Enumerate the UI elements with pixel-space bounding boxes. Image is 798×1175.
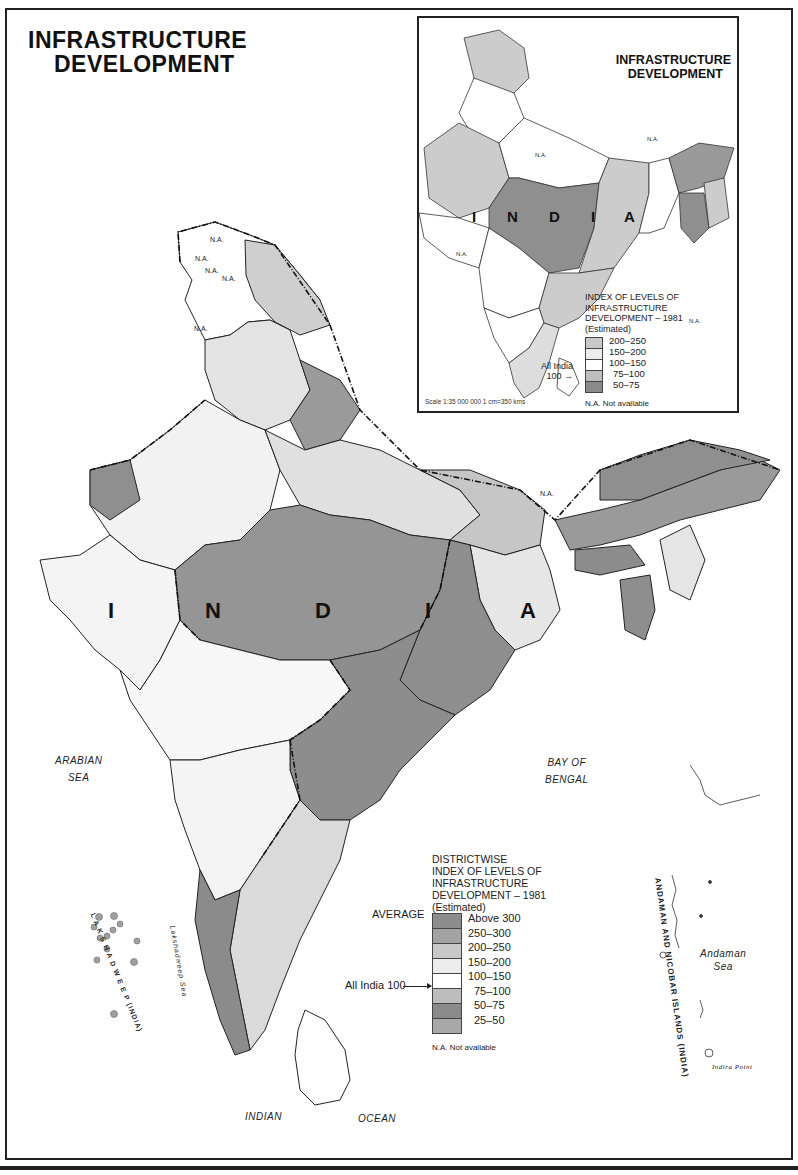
swatch-150-200: [432, 958, 462, 973]
na-label: N.A.: [210, 236, 224, 243]
inset-scale-label: Scale 1:35 000 000 1 cm=350 kms: [425, 398, 525, 405]
title-line1: INFRASTRUCTURE: [28, 27, 247, 53]
na-label: N.A.: [195, 255, 209, 262]
inset-legend-na-note: N.A. Not available: [585, 399, 649, 410]
inset-country-letter-i1: I: [472, 208, 476, 225]
inset-na-label: N.A.: [535, 152, 547, 158]
inset-legend: INDEX OF LEVELS OF INFRASTRUCTURE DEVELO…: [585, 292, 683, 334]
swatch-75-100: [432, 988, 462, 1003]
swatch-200-250: [432, 943, 462, 958]
all-india-label: All India 100: [345, 979, 406, 991]
country-letter-a: A: [520, 598, 536, 624]
inset-title: INFRASTRUCTURE DEVELOPMENT: [616, 53, 731, 81]
inset-swatch-50-75: [585, 381, 603, 393]
inset-legend-ranges: 200–250 150–200 100–150 75–100 50–75: [609, 336, 646, 391]
sea-label-arabian: ARABIAN SEA: [55, 755, 102, 783]
region-tripura-mizoram: [620, 575, 655, 640]
inset-swatch-150-200: [585, 348, 603, 359]
inset-title-line1: INFRASTRUCTURE: [616, 53, 731, 67]
inset-all-india-label: All India 100 →: [541, 361, 573, 381]
main-legend-na-note: N.A. Not available: [432, 1042, 496, 1054]
average-label: AVERAGE: [372, 908, 424, 920]
indira-point-label: Indira Point: [712, 1063, 752, 1071]
na-label: N.A.: [194, 325, 208, 332]
sri-lanka: [295, 1010, 350, 1105]
main-legend-ranges: Above 300 250–300 200–250 150–200 100–15…: [468, 912, 521, 1028]
inset-na-label: N.A.: [647, 136, 659, 142]
swatch-50-75: [432, 1003, 462, 1018]
inset-na-label: N.A.: [689, 318, 701, 324]
inset-country-letter-a: A: [624, 208, 635, 225]
inset-country-letter-n: N: [507, 208, 518, 225]
country-letter-i2: I: [425, 598, 431, 624]
main-legend-heading: DISTRICTWISE INDEX OF LEVELS OF INFRASTR…: [432, 853, 546, 913]
na-label: N.A.: [222, 275, 236, 282]
inset-swatch-100-150: [585, 359, 603, 370]
main-legend: DISTRICTWISE INDEX OF LEVELS OF INFRASTR…: [432, 853, 546, 913]
sea-label-bay-of-bengal: BAY OF BENGAL: [545, 757, 589, 785]
inset-legend-swatches: [585, 337, 603, 393]
inset-country-letter-i2: I: [591, 208, 595, 225]
swatch-250-300: [432, 928, 462, 943]
sea-label-andaman: Andaman Sea: [700, 947, 746, 973]
swatch-above-300: [432, 913, 462, 928]
inset-swatch-75-100: [585, 370, 603, 381]
country-letter-i1: I: [108, 598, 114, 624]
region-meghalaya: [575, 545, 645, 575]
inset-title-line2: DEVELOPMENT: [616, 67, 731, 81]
arrow-icon: [403, 986, 431, 987]
inset-map-panel: INFRASTRUCTURE DEVELOPMENT I N D I A N.A…: [417, 16, 739, 413]
sea-label-ocean: OCEAN: [358, 1113, 396, 1124]
inset-country-letter-d: D: [549, 208, 560, 225]
inset-na-label: N.A.: [456, 251, 468, 257]
na-label: N.A.: [540, 490, 554, 497]
sea-label-indian: INDIAN: [245, 1111, 282, 1122]
title-line2: DEVELOPMENT: [28, 52, 247, 76]
region-nagaland-manipur: [660, 525, 705, 600]
swatch-100-150: [432, 973, 462, 988]
main-legend-swatches: [432, 913, 462, 1034]
na-label: N.A.: [205, 267, 219, 274]
inset-swatch-200-250: [585, 337, 603, 348]
country-letter-d: D: [315, 598, 331, 624]
page-title: INFRASTRUCTURE DEVELOPMENT: [28, 28, 247, 76]
country-letter-n: N: [205, 598, 221, 624]
swatch-25-50: [432, 1018, 462, 1034]
